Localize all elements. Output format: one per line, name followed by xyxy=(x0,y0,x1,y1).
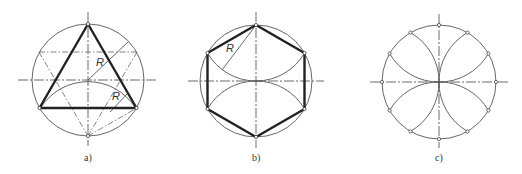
radius-label-R: R xyxy=(96,56,104,68)
vertex-point xyxy=(135,106,138,109)
division-point xyxy=(466,31,469,34)
division-point xyxy=(409,31,412,34)
division-point xyxy=(466,130,469,133)
panel-c-twelve-division: c) xyxy=(370,14,508,164)
vertex-point xyxy=(206,51,209,54)
panel-b-hexagon: R b) xyxy=(188,12,324,164)
construction-line-diag xyxy=(88,108,137,136)
radius-label-R: R xyxy=(226,42,234,54)
vertex-point xyxy=(254,23,257,26)
geometric-construction-figure: R R a) R b) xyxy=(0,0,522,174)
division-point xyxy=(388,52,391,55)
division-point xyxy=(487,52,490,55)
caption-c: c) xyxy=(435,152,443,164)
vertex-point xyxy=(254,135,257,138)
division-point xyxy=(437,23,440,26)
division-point xyxy=(437,137,440,140)
radius-label-R-2: R xyxy=(112,90,120,102)
division-point xyxy=(409,130,412,133)
bottom-point xyxy=(86,134,89,137)
vertex-point xyxy=(38,106,41,109)
division-point xyxy=(388,109,391,112)
division-point xyxy=(494,80,497,83)
division-point xyxy=(380,80,383,83)
vertex-point xyxy=(303,51,306,54)
caption-a: a) xyxy=(84,152,92,164)
division-point xyxy=(487,109,490,112)
vertex-point xyxy=(303,107,306,110)
panel-a-triangle: R R a) xyxy=(18,12,158,164)
caption-b: b) xyxy=(252,152,260,164)
vertex-point xyxy=(86,22,89,25)
vertex-point xyxy=(206,107,209,110)
